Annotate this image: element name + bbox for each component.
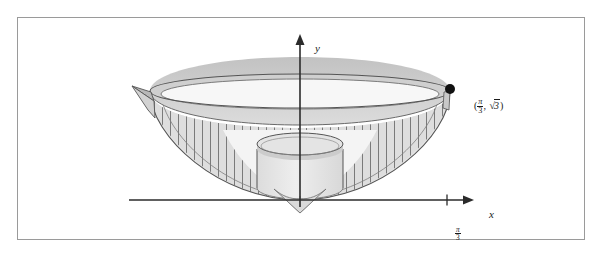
x-axis-label: x (489, 208, 494, 220)
point-label-x-fraction: π3 (477, 98, 483, 115)
point-label-y-radicand: 3 (494, 99, 500, 111)
point-label-close-paren: ) (500, 100, 503, 111)
solid-of-revolution-illustration (18, 18, 586, 241)
x-tick-label: π3 (455, 226, 461, 242)
x-tick-fraction: π3 (455, 226, 461, 242)
point-label-x-denominator: 3 (477, 107, 483, 115)
y-axis-label: y (315, 42, 320, 54)
rim-point-marker-dot (445, 84, 455, 94)
x-tick-denominator: 3 (455, 234, 461, 241)
rim-point-label: (π3, √3) (474, 98, 503, 115)
point-label-y-radical-group: √3 (488, 99, 500, 111)
figure-root: y x (π3, √3) π3 (0, 0, 602, 254)
y-axis-arrowhead (296, 34, 305, 45)
figure-frame-border: y x (π3, √3) π3 (17, 17, 585, 240)
x-axis-arrowhead (463, 196, 474, 205)
